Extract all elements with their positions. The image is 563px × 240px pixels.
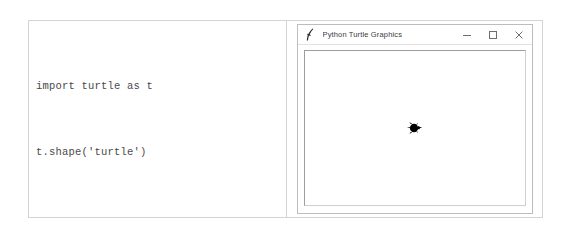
turtle-sprite bbox=[406, 120, 424, 136]
window-title-bar[interactable]: Python Turtle Graphics bbox=[298, 25, 532, 45]
maximize-button[interactable] bbox=[480, 25, 506, 44]
turtle-canvas[interactable] bbox=[304, 50, 526, 206]
code-line-2: t.shape('turtle') bbox=[36, 141, 286, 163]
code-listing: import turtle as t t.shape('turtle') bbox=[29, 31, 286, 207]
table-row: import turtle as t t.shape('turtle') Pyt… bbox=[29, 21, 543, 218]
turtle-graphics-window: Python Turtle Graphics bbox=[297, 24, 533, 214]
window-controls bbox=[454, 25, 532, 44]
window-title: Python Turtle Graphics bbox=[323, 30, 454, 39]
code-cell: import turtle as t t.shape('turtle') bbox=[29, 21, 287, 218]
minimize-button[interactable] bbox=[454, 25, 480, 44]
close-button[interactable] bbox=[506, 25, 532, 44]
code-line-1: import turtle as t bbox=[36, 75, 286, 97]
comparison-table: import turtle as t t.shape('turtle') Pyt… bbox=[28, 20, 543, 218]
screenshot-cell: Python Turtle Graphics bbox=[287, 21, 543, 218]
python-feather-icon bbox=[303, 27, 319, 43]
canvas-wrapper bbox=[298, 45, 532, 213]
